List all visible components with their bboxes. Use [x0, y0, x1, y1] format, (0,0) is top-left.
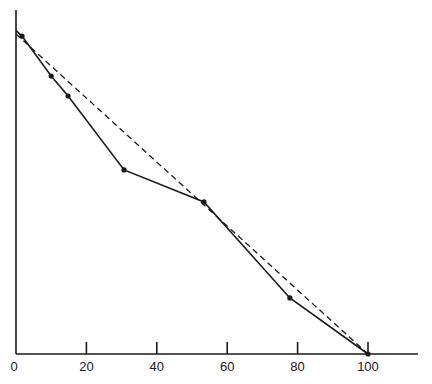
dashed-reference-line	[16, 34, 368, 354]
line-chart: 020406080100	[0, 0, 432, 384]
data-point-marker	[65, 93, 70, 98]
data-point-marker	[121, 167, 126, 172]
data-point-marker	[49, 73, 54, 78]
x-axis-ticks	[86, 342, 368, 354]
x-axis-tick-labels: 020406080100	[10, 359, 378, 374]
x-tick-label: 100	[357, 359, 379, 374]
x-tick-label: 60	[220, 359, 234, 374]
x-tick-label: 40	[150, 359, 164, 374]
plot-series	[16, 31, 371, 357]
x-tick-label: 80	[290, 359, 304, 374]
x-tick-label: 20	[79, 359, 93, 374]
x-tick-label: 0	[10, 359, 17, 374]
data-point-marker	[287, 295, 292, 300]
